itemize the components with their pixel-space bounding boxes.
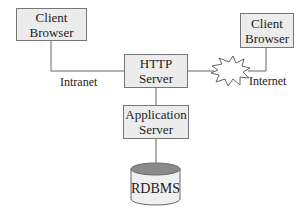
client-right-line1: Client (251, 16, 283, 31)
intranet-connector (51, 41, 124, 71)
app-server-line1: Application (125, 107, 186, 122)
internet-to-client-connector (248, 48, 266, 71)
intranet-label: Intranet (60, 75, 97, 89)
application-server-node: Application Server (123, 105, 189, 139)
database-label: RDBMS (131, 181, 180, 197)
http-server-line1: HTTP (140, 56, 173, 71)
internet-cloud-icon (211, 56, 250, 86)
app-server-line2: Server (139, 122, 173, 137)
client-browser-right: Client Browser (240, 13, 294, 48)
client-left-line1: Client (36, 10, 68, 25)
http-server-line2: Server (139, 71, 173, 86)
client-left-line2: Browser (29, 25, 73, 40)
http-server-node: HTTP Server (124, 54, 188, 88)
client-right-line2: Browser (245, 31, 289, 46)
architecture-diagram: Client Browser Client Browser HTTP Serve… (0, 0, 306, 212)
client-browser-left: Client Browser (16, 8, 87, 41)
internet-label: Internet (249, 74, 286, 88)
